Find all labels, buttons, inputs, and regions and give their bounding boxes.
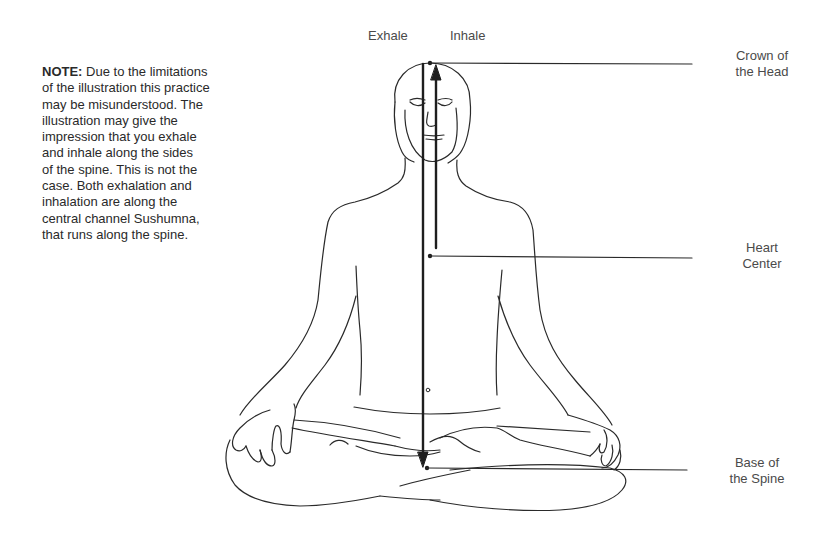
left-hand-knee-drawing — [226, 404, 400, 506]
crown-of-head-pointer — [428, 61, 692, 65]
torso-drawing — [240, 158, 612, 425]
navel-mark — [426, 388, 430, 392]
base-of-spine-pointer — [425, 466, 687, 470]
heart-center-pointer — [428, 254, 692, 258]
meditation-figure-illustration — [0, 0, 822, 533]
exhale-arrow — [418, 64, 428, 467]
inhale-arrow — [431, 65, 441, 248]
right-hand-knee-drawing — [400, 415, 626, 511]
